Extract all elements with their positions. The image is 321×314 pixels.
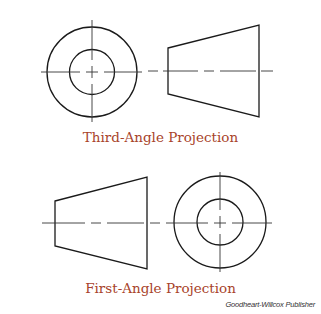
- third-angle-caption: Third-Angle Projection: [0, 129, 321, 145]
- publisher-credit: Goodheart-Willcox Publisher: [225, 300, 315, 309]
- first-angle-caption: First-Angle Projection: [0, 280, 321, 296]
- projection-diagram: [0, 0, 321, 314]
